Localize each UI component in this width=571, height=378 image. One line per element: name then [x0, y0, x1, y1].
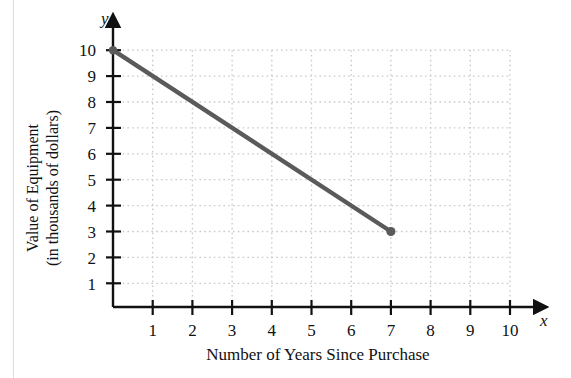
x-tick-label-7: 7 [376, 322, 406, 339]
y-tick-label-5: 5 [62, 172, 96, 189]
equipment-value-line-chart: 10 9 8 7 6 5 4 3 2 1 1 2 3 4 5 6 7 8 9 1… [0, 0, 571, 378]
x-tick-label-6: 6 [336, 322, 366, 339]
x-tick-label-2: 2 [177, 322, 207, 339]
y-tick-label-7: 7 [62, 120, 96, 137]
x-tick-label-9: 9 [455, 322, 485, 339]
y-tick-label-8: 8 [62, 94, 96, 111]
y-axis-title-line-2: (in thousands of dollars) [43, 83, 63, 293]
y-axis-title-line-1: Value of Equipment [23, 83, 43, 293]
x-tick-label-5: 5 [297, 322, 327, 339]
y-axis-letter: y [101, 10, 109, 27]
x-tick-label-10: 10 [495, 322, 525, 339]
x-axis-letter: x [540, 312, 548, 329]
x-tick-label-4: 4 [257, 322, 287, 339]
x-tick-label-8: 8 [416, 322, 446, 339]
y-tick-label-10: 10 [62, 42, 96, 59]
y-tick-label-6: 6 [62, 146, 96, 163]
data-point-start-0-10 [109, 46, 117, 54]
axes [113, 26, 535, 307]
y-tick-label-9: 9 [62, 68, 96, 85]
y-tick-label-1: 1 [62, 276, 96, 293]
x-tick-label-3: 3 [217, 322, 247, 339]
y-tick-label-3: 3 [62, 224, 96, 241]
x-axis-title: Number of Years Since Purchase [113, 345, 523, 365]
y-tick-label-4: 4 [62, 198, 96, 215]
data-series-equipment-value [109, 46, 396, 236]
y-tick-label-2: 2 [62, 250, 96, 267]
value-line-segment [113, 50, 391, 231]
data-point-end-7-3 [386, 227, 395, 236]
x-tick-label-1: 1 [138, 322, 168, 339]
y-axis-title: Value of Equipment (in thousands of doll… [23, 83, 63, 293]
